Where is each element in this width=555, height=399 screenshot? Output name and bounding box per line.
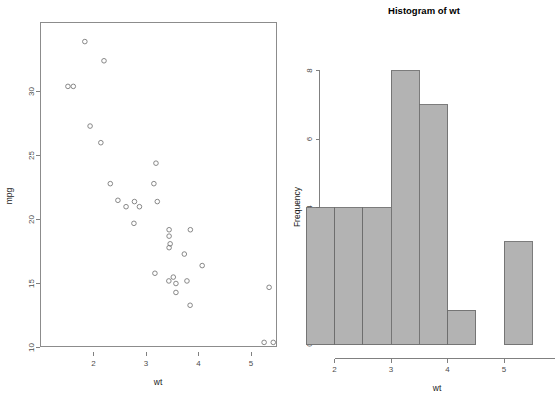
- scatter-data-point: [137, 204, 142, 209]
- scatter-data-point: [155, 199, 160, 204]
- scatter-x-tick-label: 2: [91, 359, 96, 368]
- scatter-x-tick-label: 5: [249, 359, 254, 368]
- histogram-x-tick-label: 2: [332, 365, 337, 374]
- scatter-data-point: [153, 271, 158, 276]
- scatter-data-point: [182, 252, 187, 257]
- scatter-plot-panel: 30 25 20 15 10 mpg 2 3 4: [0, 0, 290, 399]
- scatter-data-point: [174, 281, 179, 286]
- histogram-bar: [335, 208, 363, 345]
- histogram-panel: Histogram of wt 8 6 4 2 0 Frequency: [290, 0, 555, 399]
- histogram-bar: [391, 71, 419, 345]
- histogram-x-axis: 2 3 4 5: [332, 359, 507, 375]
- scatter-x-axis-title: wt: [153, 377, 163, 387]
- scatter-y-tick-label: 20: [27, 215, 36, 224]
- figure-canvas: 30 25 20 15 10 mpg 2 3 4: [0, 0, 555, 399]
- scatter-data-point: [124, 204, 129, 209]
- scatter-y-tick-label: 30: [27, 87, 36, 96]
- scatter-data-point: [71, 84, 76, 89]
- histogram-y-tick-label: 8: [305, 68, 314, 73]
- scatter-data-point: [167, 227, 172, 232]
- scatter-data-point: [174, 290, 179, 295]
- histogram-x-tick-label: 4: [445, 365, 450, 374]
- scatter-data-point: [185, 279, 190, 284]
- scatter-data-point: [167, 234, 172, 239]
- scatter-data-point: [188, 227, 193, 232]
- histogram-bar: [419, 105, 447, 345]
- histogram-bar: [363, 208, 391, 345]
- scatter-data-point: [83, 39, 88, 44]
- scatter-data-point: [154, 161, 159, 166]
- histogram-bar-group: [306, 71, 532, 345]
- histogram-y-tick-label: 6: [305, 136, 314, 141]
- histogram-x-tick-label: 3: [389, 365, 394, 374]
- histogram-x-axis-title: wt: [432, 383, 442, 393]
- scatter-data-point: [66, 84, 71, 89]
- scatter-data-point: [99, 140, 104, 145]
- scatter-data-point: [152, 181, 157, 186]
- scatter-data-point: [188, 303, 193, 308]
- scatter-y-axis: 30 25 20 15 10: [27, 87, 40, 352]
- scatter-y-tick-label: 25: [27, 151, 36, 160]
- scatter-plot-frame: [41, 23, 277, 347]
- scatter-data-point: [262, 340, 267, 345]
- scatter-x-tick-label: 3: [144, 359, 149, 368]
- scatter-y-tick-label: 15: [27, 279, 36, 288]
- scatter-x-axis: 2 3 4 5: [91, 352, 254, 368]
- scatter-data-point: [132, 199, 137, 204]
- scatter-data-point: [88, 124, 93, 129]
- histogram-bar: [448, 310, 476, 344]
- scatter-x-tick-label: 4: [196, 359, 201, 368]
- scatter-data-point: [167, 279, 172, 284]
- scatter-data-point: [267, 285, 272, 290]
- histogram-bar: [306, 208, 334, 345]
- histogram-title: Histogram of wt: [388, 5, 461, 16]
- scatter-point-group: [66, 39, 276, 344]
- scatter-data-point: [102, 58, 107, 63]
- scatter-data-point: [116, 198, 121, 203]
- histogram-svg: Histogram of wt 8 6 4 2 0 Frequency: [290, 0, 555, 399]
- scatter-data-point: [200, 263, 205, 268]
- scatter-data-point: [271, 340, 276, 345]
- scatter-y-axis-title: mpg: [4, 187, 14, 204]
- scatter-y-tick-label: 10: [27, 343, 36, 352]
- scatter-data-point: [171, 275, 176, 280]
- scatter-plot-svg: 30 25 20 15 10 mpg 2 3 4: [0, 0, 290, 399]
- histogram-bar: [504, 242, 532, 345]
- histogram-y-axis-title: Frequency: [292, 186, 302, 227]
- scatter-data-point: [132, 221, 137, 226]
- scatter-data-point: [108, 181, 113, 186]
- histogram-x-tick-label: 5: [502, 365, 507, 374]
